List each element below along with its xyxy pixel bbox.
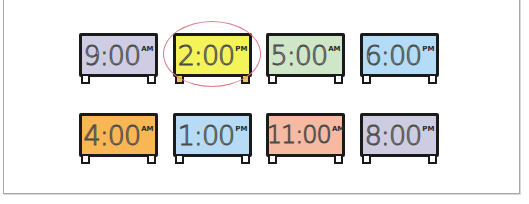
clock-option[interactable]: 1:00PM [173,113,252,165]
clock-foot-left [362,155,371,164]
clock-period: AM [141,45,153,53]
clock-foot-right [147,75,156,84]
clock-option[interactable]: 9:00AM [79,33,158,85]
clock-time: 4:00 [83,122,140,149]
clock-option[interactable]: 2:00PM [173,33,252,85]
clock-foot-right [334,75,343,84]
clock-display: 5:00AM [266,33,345,77]
clock-time: 11:00 [267,123,331,147]
clock-foot-left [268,75,277,84]
clock-option[interactable]: 8:00PM [360,113,439,165]
clock-display: 4:00AM [79,113,158,157]
clock-period: PM [235,125,247,133]
clock-foot-left [81,75,90,84]
clock-foot-left [175,155,184,164]
clock-option[interactable]: 4:00AM [79,113,158,165]
clock-time: 2:00 [178,42,235,69]
clock-time: 5:00 [270,42,327,69]
clock-time: 8:00 [365,122,422,149]
clock-foot-left [175,75,184,84]
clock-foot-right [241,155,250,164]
clock-period: PM [422,45,434,53]
clock-period: AM [328,45,340,53]
clock-display: 11:00AM [266,113,345,157]
clock-foot-right [147,155,156,164]
clock-foot-left [268,155,277,164]
clock-option[interactable]: 6:00PM [360,33,439,85]
clock-foot-right [241,75,250,84]
clock-display: 2:00PM [173,33,252,77]
clock-period: PM [235,45,247,53]
clock-display: 1:00PM [173,113,252,157]
clock-option[interactable]: 5:00AM [266,33,345,85]
clock-period: AM [141,125,153,133]
clock-option[interactable]: 11:00AM [266,113,345,165]
clock-foot-right [428,155,437,164]
clock-display: 6:00PM [360,33,439,77]
clock-time: 6:00 [365,42,422,69]
clock-period: PM [422,125,434,133]
clock-time: 9:00 [83,42,140,69]
clock-foot-right [334,155,343,164]
clock-foot-left [81,155,90,164]
clock-display: 8:00PM [360,113,439,157]
clock-display: 9:00AM [79,33,158,77]
clock-foot-left [362,75,371,84]
clock-period: AM [332,125,344,133]
clock-foot-right [428,75,437,84]
clock-time: 1:00 [178,122,235,149]
